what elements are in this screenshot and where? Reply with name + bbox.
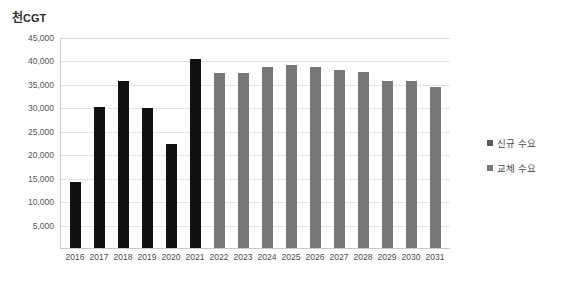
bar-group — [399, 38, 423, 248]
y-axis-tick-label: 30,000 — [8, 103, 54, 113]
x-axis-tick-label: 2028 — [351, 252, 375, 268]
axis-unit-label: CGT — [23, 12, 46, 24]
bar-group — [351, 38, 375, 248]
y-axis-tick-label: 20,000 — [8, 150, 54, 160]
x-axis-tick-label: 2017 — [87, 252, 111, 268]
y-axis-tick-label: 15,000 — [8, 174, 54, 184]
bar[interactable] — [166, 144, 177, 248]
legend-swatch-icon — [487, 140, 493, 146]
bar-group — [423, 38, 447, 248]
x-axis-tick-label: 2026 — [303, 252, 327, 268]
bar[interactable] — [310, 67, 321, 248]
x-axis-tick-label: 2020 — [159, 252, 183, 268]
bar-group — [112, 38, 136, 248]
chart-axis-unit-title: 천CGT — [12, 8, 46, 25]
bar[interactable] — [286, 65, 297, 248]
x-axis-tick-label: 2018 — [111, 252, 135, 268]
bar[interactable] — [94, 107, 105, 248]
x-axis-tick-label: 2016 — [63, 252, 87, 268]
plot-area — [60, 38, 450, 249]
y-axis-tick-label: 40,000 — [8, 56, 54, 66]
y-axis-tick-label: 45,000 — [8, 33, 54, 43]
bar[interactable] — [358, 72, 369, 248]
x-axis-tick-label: 2029 — [375, 252, 399, 268]
x-axis-tick-label: 2030 — [399, 252, 423, 268]
bar-group — [208, 38, 232, 248]
bar-group — [303, 38, 327, 248]
x-axis-tick-label: 2021 — [183, 252, 207, 268]
x-axis-tick-label: 2023 — [231, 252, 255, 268]
bar[interactable] — [430, 87, 441, 248]
bar[interactable] — [382, 81, 393, 248]
bar-group — [88, 38, 112, 248]
x-axis-labels: 2016201720182019202020212022202320242025… — [60, 252, 450, 268]
y-axis-tick-label: 35,000 — [8, 80, 54, 90]
y-axis-tick-label: 10,000 — [8, 197, 54, 207]
bars-container — [61, 38, 450, 248]
bar-group — [256, 38, 280, 248]
bar-group — [327, 38, 351, 248]
bar[interactable] — [406, 81, 417, 248]
bar[interactable] — [142, 108, 153, 248]
legend-label: 신규 수요 — [497, 136, 536, 150]
x-axis-tick-label: 2024 — [255, 252, 279, 268]
bar[interactable] — [190, 59, 201, 248]
axis-unit-prefix: 천 — [12, 11, 23, 25]
bar-group — [184, 38, 208, 248]
bar[interactable] — [70, 182, 81, 248]
x-axis-tick-label: 2022 — [207, 252, 231, 268]
bar[interactable] — [334, 70, 345, 248]
bar-group — [64, 38, 88, 248]
bar[interactable] — [118, 81, 129, 248]
bar-group — [375, 38, 399, 248]
bar-group — [232, 38, 256, 248]
chart-legend: 신규 수요교체 수요 — [487, 136, 536, 175]
x-axis-tick-label: 2025 — [279, 252, 303, 268]
bar-group — [136, 38, 160, 248]
x-axis-tick-label: 2027 — [327, 252, 351, 268]
y-axis-labels: 45,00040,00035,00030,00025,00020,00015,0… — [6, 38, 54, 249]
bar-group — [279, 38, 303, 248]
legend-item[interactable]: 신규 수요 — [487, 136, 536, 150]
legend-label: 교체 수요 — [497, 161, 536, 175]
bar[interactable] — [238, 73, 249, 248]
y-axis-tick-label: 5,000 — [8, 221, 54, 231]
bar-group — [160, 38, 184, 248]
y-axis-tick-label: 25,000 — [8, 127, 54, 137]
x-axis-tick-label: 2019 — [135, 252, 159, 268]
x-axis-tick-label: 2031 — [423, 252, 447, 268]
bar[interactable] — [214, 73, 225, 248]
bar[interactable] — [262, 67, 273, 248]
legend-swatch-icon — [487, 165, 493, 171]
bar-chart: 천CGT 45,00040,00035,00030,00025,00020,00… — [0, 0, 571, 282]
legend-item[interactable]: 교체 수요 — [487, 161, 536, 175]
